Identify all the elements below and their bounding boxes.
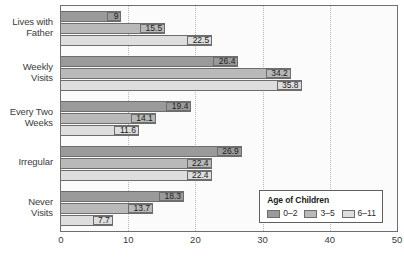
- bar-value-label: 14.1: [131, 114, 156, 123]
- legend-swatch: [342, 210, 355, 218]
- x-axis-tick-label: 40: [325, 234, 336, 245]
- bar-value-label: 26.9: [217, 147, 242, 156]
- bar-value-label: 19.4: [166, 102, 191, 111]
- bar-group: 915.522.5: [61, 6, 397, 51]
- bar-chart: Lives withFatherWeeklyVisitsEvery TwoWee…: [0, 0, 404, 265]
- legend-swatch: [304, 210, 317, 218]
- bar-value-label: 13.7: [128, 204, 153, 213]
- bar-value-label: 22.5: [187, 36, 212, 45]
- y-axis-label: Irregular: [0, 157, 53, 168]
- bar: [61, 68, 291, 79]
- bar: [61, 146, 242, 157]
- x-axis-tick-label: 50: [392, 234, 403, 245]
- bar-value-label: 7.7: [93, 216, 113, 225]
- y-axis-label: NeverVisits: [0, 197, 53, 218]
- y-axis-label: WeeklyVisits: [0, 62, 53, 83]
- bar-group: 26.434.235.8: [61, 51, 397, 96]
- y-axis-label-line: Lives with: [0, 17, 53, 28]
- legend: Age of Children 0–23–56–11: [259, 190, 383, 223]
- x-axis-tick-label: 30: [257, 234, 268, 245]
- bar-value-label: 34.2: [266, 69, 291, 78]
- y-axis-label-line: Every Two: [0, 107, 53, 118]
- legend-item: 0–2: [267, 209, 297, 218]
- legend-swatch: [267, 210, 280, 218]
- x-axis-tick-label: 20: [190, 234, 201, 245]
- legend-items: 0–23–56–11: [267, 209, 376, 218]
- bar: [61, 56, 238, 67]
- bar-group: 19.414.111.6: [61, 96, 397, 141]
- y-axis-label-line: Weekly: [0, 62, 53, 73]
- x-axis-tick-labels: 01020304050: [60, 234, 398, 250]
- y-axis-label-line: Weeks: [0, 118, 53, 129]
- legend-item: 6–11: [342, 209, 376, 218]
- legend-item: 3–5: [304, 209, 334, 218]
- legend-item-label: 3–5: [320, 209, 334, 218]
- y-axis-label: Every TwoWeeks: [0, 107, 53, 128]
- bar-value-label: 9: [107, 12, 121, 21]
- y-axis-category-labels: Lives withFatherWeeklyVisitsEvery TwoWee…: [0, 5, 55, 232]
- bar-value-label: 35.8: [277, 81, 302, 90]
- bar-value-label: 22.4: [187, 159, 212, 168]
- legend-item-label: 6–11: [358, 209, 376, 218]
- bar: [61, 80, 302, 91]
- bar-value-label: 26.4: [213, 57, 238, 66]
- y-axis-label-line: Never: [0, 197, 53, 208]
- y-axis-label-line: Father: [0, 28, 53, 39]
- bar-value-label: 15.5: [140, 24, 165, 33]
- x-axis-tick-label: 10: [123, 234, 134, 245]
- legend-item-label: 0–2: [283, 209, 297, 218]
- bar-value-label: 22.4: [187, 171, 212, 180]
- plot-area: 915.522.526.434.235.819.414.111.626.922.…: [60, 5, 398, 232]
- y-axis-label-line: Visits: [0, 73, 53, 84]
- bar-value-label: 11.6: [114, 126, 139, 135]
- y-axis-label-line: Visits: [0, 208, 53, 219]
- x-axis-tick-label: 0: [58, 234, 63, 245]
- bar-value-label: 18.3: [159, 192, 184, 201]
- bar-group: 26.922.422.4: [61, 141, 397, 186]
- y-axis-label: Lives withFather: [0, 17, 53, 38]
- legend-title: Age of Children: [267, 195, 376, 205]
- y-axis-label-line: Irregular: [0, 157, 53, 168]
